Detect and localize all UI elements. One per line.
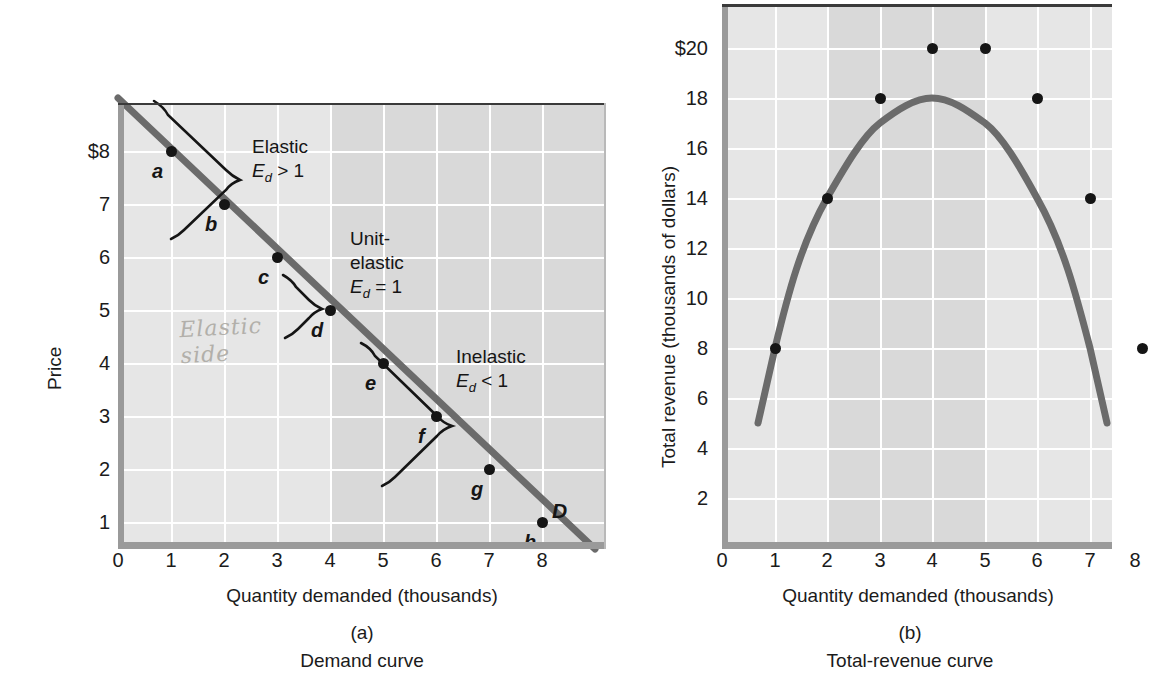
demand-point-label-a: a [152,161,163,181]
panel-a-ytick-6: 6 [58,247,110,267]
panel-b-caption: Total-revenue curve [708,650,1112,672]
panel-b-xtick-8: 8 [1120,550,1150,570]
panel-a-xtick-7: 7 [474,550,504,570]
panel-a-xtick-2: 2 [209,550,239,570]
annotation-elastic-rel: > 1 [277,160,304,181]
panel-a-frame-right [604,103,606,549]
annotation-unit-elastic-line1: Unit- [350,227,404,251]
panel-a-ytick-2: 2 [58,459,110,479]
demand-curve-label: D [552,499,567,523]
demand-point-h [537,517,548,528]
annotation-inelastic-rel: < 1 [481,370,508,391]
panel-a-xtick-0: 0 [103,550,133,570]
annotation-inelastic: Inelastic Ed < 1 [456,345,526,400]
annotation-inelastic-sub: d [469,380,476,395]
tr-point-q8 [1137,343,1148,354]
tr-point-q2 [822,193,833,204]
panel-b-ytick-10: 10 [642,288,708,308]
tr-point-q7 [1085,193,1096,204]
annotation-inelastic-formula: Ed < 1 [456,369,526,400]
panel-demand-curve: Price $8 7 6 5 4 3 2 1 [0,0,630,683]
total-revenue-curve-line [758,98,1107,423]
demand-point-label-f: f [418,426,425,446]
panel-b-xtick-7: 7 [1075,550,1105,570]
panel-a-letter: (a) [118,622,606,644]
annotation-elastic-sub: d [265,170,272,185]
panel-b-xtick-5: 5 [970,550,1000,570]
annotation-elastic-formula: Ed > 1 [252,159,308,190]
panel-b-letter: (b) [708,622,1112,644]
panel-a-ytick-8: $8 [58,141,110,161]
annotation-elastic-line1: Elastic [252,135,308,159]
tr-point-q4 [927,43,938,54]
panel-b-ytick-18: 18 [642,88,708,108]
demand-point-d [325,305,336,316]
demand-point-label-b: b [205,214,217,234]
demand-point-g [484,464,495,475]
panel-a-ytick-4: 4 [58,353,110,373]
annotation-unit-elastic-sym: E [350,276,363,297]
tr-point-q1 [770,343,781,354]
panel-a-axis-left [118,103,124,549]
panel-a-plot-area: Elastic side a b [118,103,606,549]
panel-total-revenue-curve: Total revenue (thousands of dollars) $20… [630,0,1112,683]
panel-a-xtick-3: 3 [262,550,292,570]
panel-b-xtick-0: 0 [707,550,737,570]
panel-b-ytick-16: 16 [642,138,708,158]
demand-point-e [378,358,389,369]
annotation-inelastic-sym: E [456,370,469,391]
panel-a-xtick-8: 8 [527,550,557,570]
panel-a-x-axis-title: Quantity demanded (thousands) [118,585,606,607]
panel-a-frame-top [118,103,606,105]
panel-a-xtick-1: 1 [156,550,186,570]
panel-b-axis-left [722,4,728,549]
panel-b-ytick-8: 8 [642,338,708,358]
annotation-inelastic-line1: Inelastic [456,345,526,369]
panel-b-x-axis-title: Quantity demanded (thousands) [708,585,1128,607]
demand-curve-line [118,98,595,549]
panel-b-ytick-4: 4 [642,438,708,458]
panel-b-ytick-6: 6 [642,388,708,408]
annotation-elastic: Elastic Ed > 1 [252,135,308,190]
panel-a-xtick-6: 6 [421,550,451,570]
tr-point-q3 [875,93,886,104]
annotation-unit-elastic-sub: d [363,286,370,301]
panel-a-ytick-5: 5 [58,300,110,320]
panel-b-ytick-12: 12 [642,238,708,258]
panel-a-xtick-4: 4 [315,550,345,570]
panel-b-frame-top [722,4,1112,7]
panel-b-xtick-4: 4 [917,550,947,570]
panel-b-ytick-2: 2 [642,488,708,508]
panel-a-ytick-3: 3 [58,406,110,426]
demand-point-b [219,199,230,210]
panel-b-axis-bottom [722,542,1112,549]
panel-a-xtick-5: 5 [368,550,398,570]
panel-a-curve-layer [118,103,606,549]
panel-a-axis-bottom [118,542,606,549]
demand-point-label-d: d [311,320,323,340]
annotation-unit-elastic-formula: Ed = 1 [350,275,404,306]
demand-point-f [431,411,442,422]
panel-b-xtick-1: 1 [760,550,790,570]
demand-point-label-g: g [471,479,483,499]
annotation-unit-elastic-line2: elastic [350,251,404,275]
panel-b-ytick-14: 14 [642,188,708,208]
demand-point-a [166,146,177,157]
panel-b-xtick-6: 6 [1022,550,1052,570]
tr-point-q6 [1032,93,1043,104]
tr-point-q5 [980,43,991,54]
annotation-elastic-sym: E [252,160,265,181]
panel-b-ytick-20: $20 [642,38,708,58]
demand-point-label-c: c [258,267,269,287]
panel-b-xtick-2: 2 [812,550,842,570]
panel-b-curve-layer [722,4,1112,549]
panel-b-plot-area [722,4,1112,549]
panel-b-y-axis-title: Total revenue (thousands of dollars) [658,166,680,468]
annotation-unit-elastic-rel: = 1 [375,276,402,297]
panel-a-ytick-1: 1 [58,512,110,532]
demand-point-label-e: e [365,373,376,393]
panel-a-ytick-7: 7 [58,194,110,214]
panel-a-caption: Demand curve [118,650,606,672]
demand-point-c [272,252,283,263]
